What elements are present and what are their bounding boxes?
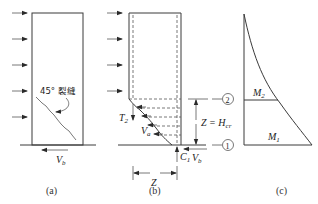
caption-c: (c) (276, 185, 287, 197)
caption-a: (a) (46, 185, 57, 197)
crack-line (36, 97, 76, 140)
m1-label: M1 (267, 131, 280, 144)
lateral-load-arrows-a (12, 13, 27, 117)
base-shear-label-a: Vb (56, 154, 66, 167)
caption-b: (b) (149, 185, 161, 197)
crack-boundary-b (129, 99, 172, 145)
section-1-label: 1 (226, 142, 230, 151)
moment-curve (244, 14, 312, 145)
panel-c: M2 M1 (c) (244, 14, 312, 197)
t2-label: T2 (119, 112, 129, 125)
panel-a: 45° 裂缝 Vb (a) (12, 13, 96, 197)
section-2-label: 2 (226, 96, 230, 105)
shear-wall-diagram: 45° 裂缝 Vb (a) T2 Va (0, 0, 318, 204)
lateral-load-arrows-b (107, 13, 122, 91)
crack-label: 45° 裂缝 (40, 86, 76, 96)
hcr-label: Z = Hcr (201, 117, 232, 130)
wall-outline-a (32, 13, 83, 145)
vb-label-b: Vb (192, 152, 202, 165)
panel-b: T2 Va C1 Vb Z (b) Z = Hcr 2 1 (107, 13, 234, 197)
c1-label: C1 (180, 151, 190, 164)
crack-pointer-arrow (56, 98, 69, 112)
m2-label: M2 (252, 87, 265, 100)
va-label: Va (141, 125, 151, 138)
